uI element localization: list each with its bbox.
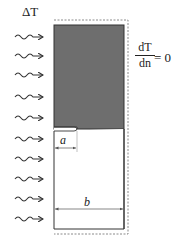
- wavy-arrow-icon: [15, 157, 43, 161]
- width-label: b: [84, 195, 90, 210]
- wavy-arrow-icon: [15, 177, 43, 181]
- boundary-condition-equals: = 0: [154, 50, 171, 66]
- crack-length-label: a: [60, 133, 66, 148]
- crack-notch: [54, 127, 77, 131]
- diagram-canvas: [0, 0, 180, 242]
- wavy-arrow-icon: [15, 54, 43, 58]
- fraction-numerator: dT: [135, 41, 155, 54]
- shaded-region: [54, 25, 124, 129]
- wavy-arrow-icon: [15, 73, 43, 77]
- wavy-arrow-icon: [15, 116, 43, 120]
- wavy-arrow-icon: [15, 95, 43, 99]
- heat-flux-arrows: [15, 35, 43, 221]
- wavy-arrow-icon: [15, 35, 43, 39]
- wavy-arrow-icon: [15, 197, 43, 201]
- fraction-denominator: dn: [135, 57, 155, 70]
- temperature-change-label: ΔT: [22, 4, 38, 20]
- wavy-arrow-icon: [15, 217, 43, 221]
- wavy-arrow-icon: [15, 137, 43, 141]
- boundary-condition-fraction: dT dn: [135, 41, 155, 70]
